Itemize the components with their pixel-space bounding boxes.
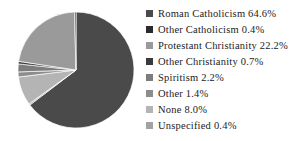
legend-item-none: None 8.0% <box>146 102 305 118</box>
pie-slice-group <box>18 12 134 128</box>
legend-swatch-protestant-christianity <box>146 42 153 49</box>
legend-swatch-none <box>146 106 153 113</box>
legend-item-other-catholicism: Other Catholicism 0.4% <box>146 22 305 38</box>
legend-swatch-other-catholicism <box>146 26 153 33</box>
legend-swatch-other <box>146 90 153 97</box>
chart-legend: Roman Catholicism 64.6% Other Catholicis… <box>146 6 305 138</box>
legend-label-unspecified: Unspecified 0.4% <box>158 118 237 134</box>
legend-label-other-catholicism: Other Catholicism 0.4% <box>158 22 264 38</box>
legend-label-roman-catholicism: Roman Catholicism 64.6% <box>158 6 276 22</box>
legend-label-other-christianity: Other Christianity 0.7% <box>158 54 263 70</box>
legend-item-spiritism: Spiritism 2.2% <box>146 70 305 86</box>
legend-item-other: Other 1.4% <box>146 86 305 102</box>
pie-chart-plot-area <box>8 4 144 138</box>
legend-item-roman-catholicism: Roman Catholicism 64.6% <box>146 6 305 22</box>
legend-swatch-unspecified <box>146 122 153 129</box>
legend-item-protestant-christianity: Protestant Christianity 22.2% <box>146 38 305 54</box>
pie-chart-svg <box>8 4 144 138</box>
legend-swatch-other-christianity <box>146 58 153 65</box>
legend-item-other-christianity: Other Christianity 0.7% <box>146 54 305 70</box>
pie-slice-protestant-christianity <box>19 12 76 70</box>
legend-label-none: None 8.0% <box>158 102 207 118</box>
legend-label-protestant-christianity: Protestant Christianity 22.2% <box>158 38 288 54</box>
legend-label-spiritism: Spiritism 2.2% <box>158 70 224 86</box>
legend-item-unspecified: Unspecified 0.4% <box>146 118 305 134</box>
pie-chart-figure: Roman Catholicism 64.6% Other Catholicis… <box>0 0 305 141</box>
legend-label-other: Other 1.4% <box>158 86 209 102</box>
legend-swatch-roman-catholicism <box>146 10 153 17</box>
legend-swatch-spiritism <box>146 74 153 81</box>
